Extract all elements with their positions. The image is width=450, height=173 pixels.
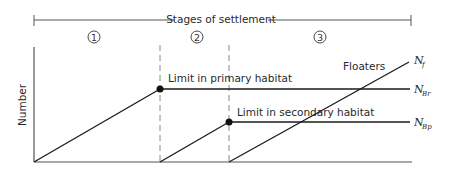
- settlement-diagram: Stages of settlement 1 2 3 Number Limit …: [0, 0, 450, 173]
- secondary-limit-point: [226, 119, 233, 126]
- n-bp-label: N Bp: [413, 116, 432, 131]
- floaters-label: Floaters: [343, 60, 385, 72]
- secondary-limit-label: Limit in secondary habitat: [237, 106, 374, 118]
- primary-rise-line: [34, 89, 160, 162]
- svg-text:f: f: [421, 61, 426, 69]
- stages-bracket: Stages of settlement: [34, 13, 411, 26]
- stages-label: Stages of settlement: [166, 13, 276, 25]
- svg-text:Bp: Bp: [421, 123, 432, 131]
- stage-3-number: 3: [317, 32, 323, 43]
- stage-1-number: 1: [91, 32, 97, 43]
- svg-text:Br: Br: [421, 90, 431, 98]
- primary-limit-label: Limit in primary habitat: [168, 72, 292, 84]
- secondary-rise-line: [160, 122, 229, 162]
- stage-2-number: 2: [194, 32, 200, 43]
- stage-1-marker: 1: [88, 31, 100, 43]
- stage-3-marker: 3: [314, 31, 326, 43]
- y-axis-label: Number: [16, 83, 28, 126]
- stage-2-marker: 2: [191, 31, 203, 43]
- n-f-label: N f: [413, 54, 426, 69]
- primary-limit-point: [157, 86, 164, 93]
- n-br-label: N Br: [413, 83, 431, 98]
